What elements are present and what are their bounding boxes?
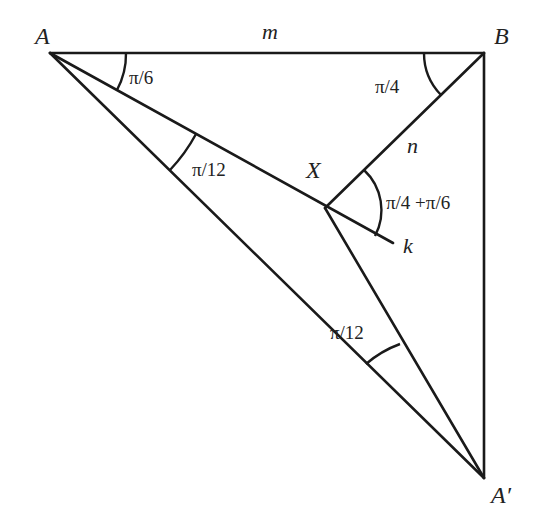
segment-label-k: k [403,233,414,258]
segment-A-k [50,53,393,243]
point-label-X: X [305,157,322,183]
angle-label-B-pi4: π/4 [375,76,400,97]
angle-label-A-pi6: π/6 [129,67,153,88]
segment-label-n: n [407,133,418,158]
angle-label-A-pi12: π/12 [192,159,226,180]
angle-arc-A-prime-pi12 [366,344,400,364]
angle-arc-A-pi6 [117,53,126,90]
point-label-B: B [494,23,509,49]
angle-label-X: π/4 +π/6 [386,192,450,213]
angle-arc-B-pi4 [424,53,441,95]
geometry-diagram: A B X A′ m n k π/6 π/12 π/4 π/4 +π/6 π/1… [0,0,546,513]
segment-label-m: m [262,19,278,44]
angle-label-A-prime-pi12: π/12 [330,322,364,343]
angle-arc-X [364,170,381,236]
segment-BX [325,53,484,208]
point-label-A-prime: A′ [489,482,512,508]
point-label-A: A [33,23,50,49]
